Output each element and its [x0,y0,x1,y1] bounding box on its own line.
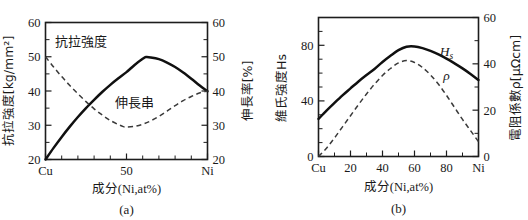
axis-title-x-a: 成分(Ni,at%) [92,182,161,196]
y-tick-label-right: 50 [213,50,226,64]
y-tick-label-left: 20 [28,153,41,167]
x-tick-label: Cu [38,164,53,178]
series-annotation: ρ [442,68,450,83]
x-tick-label: 50 [120,164,133,178]
y-tick-label-right: 40 [213,85,226,99]
x-tick-label: 40 [376,161,389,175]
y-tick-label-left: 30 [28,119,41,133]
chart-a-svg: Cu50Ni20304050602030405060抗拉強度伸長串 抗拉強度[k… [0,0,264,220]
chart-b-labels: Cu20406080Ni040800204060Hsρ [301,11,496,175]
y-tick-label-right: 60 [484,11,497,25]
y-tick-label-left: 50 [28,50,41,64]
chart-b-curves [319,46,479,156]
chart-b-axes [319,18,479,157]
axis-ticks-b [319,18,479,157]
x-tick-label: 80 [440,161,453,175]
axis-title-y-right-b: 電阻係數ρ[μΩcm] [508,35,523,141]
y-tick-label-left: 80 [301,39,314,53]
x-tick-label: 20 [344,161,357,175]
chart-b-svg: Cu20406080Ni040800204060Hsρ 維氏強度Hs 電阻係數ρ… [264,0,528,220]
x-tick-label: Cu [311,161,326,175]
figure-root: Cu50Ni20304050602030405060抗拉強度伸長串 抗拉強度[k… [0,0,528,220]
chart-panel-b: Cu20406080Ni040800204060Hsρ 維氏強度Hs 電阻係數ρ… [264,0,528,220]
series-annotation: 抗拉強度 [55,34,107,49]
y-tick-label-right: 30 [213,119,226,133]
curve-dashed [46,57,208,127]
plot-frame-b [319,18,479,157]
x-tick-label: 60 [408,161,421,175]
y-tick-label-left: 0 [307,150,313,164]
y-tick-label-left: 40 [301,94,314,108]
axis-title-y-left-b: 維氏強度Hs [274,54,289,122]
chart-panel-a: Cu50Ni20304050602030405060抗拉強度伸長串 抗拉強度[k… [0,0,264,220]
chart-a-labels: Cu50Ni20304050602030405060抗拉強度伸長串 [28,16,225,178]
series-annotation: 伸長串 [115,95,154,110]
panel-caption-a: (a) [119,202,133,217]
panel-caption-b: (b) [391,201,406,216]
curve-solid [319,46,479,119]
y-tick-label-left: 40 [28,85,41,99]
axis-title-x-b: 成分(Ni,at%) [364,180,433,194]
y-tick-label-right: 40 [484,57,497,71]
y-tick-label-right: 0 [484,150,490,164]
y-tick-label-right: 60 [213,16,226,30]
axis-title-y-right-a: 伸長率[%] [240,61,255,122]
curve-dashed [319,61,479,157]
series-annotation: Hs [439,44,454,61]
y-tick-label-right: 20 [213,153,226,167]
y-tick-label-left: 60 [28,16,41,30]
axis-title-y-left-a: 抗拉強度[kg/mm²] [1,36,16,147]
y-tick-label-right: 20 [484,104,497,118]
